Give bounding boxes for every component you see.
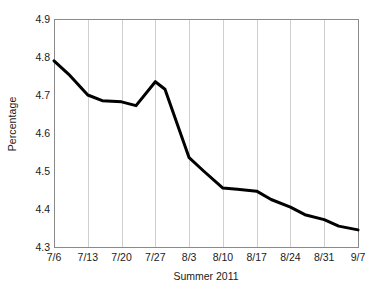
x-axis-tick-labels: 7/67/137/207/278/38/108/178/248/319/7 xyxy=(0,251,381,267)
x-axis-title: Summer 2011 xyxy=(54,270,358,282)
x-tick-label: 8/3 xyxy=(182,251,197,264)
x-tick-label: 7/6 xyxy=(47,251,62,264)
vertical-gridlines xyxy=(89,19,325,247)
x-tick-label: 8/24 xyxy=(280,251,300,264)
x-tick-label: 7/20 xyxy=(111,251,131,264)
line-chart: Percentage 4.34.44.54.64.74.84.9 7/67/13… xyxy=(0,0,381,299)
x-tick-label: 9/7 xyxy=(351,251,366,264)
x-tick-label: 8/17 xyxy=(246,251,266,264)
plot-frame xyxy=(55,20,359,248)
x-tick-label: 7/13 xyxy=(78,251,98,264)
x-tick-label: 8/10 xyxy=(213,251,233,264)
x-tick-label: 7/27 xyxy=(145,251,165,264)
data-series-line xyxy=(54,61,358,230)
x-tick-label: 8/31 xyxy=(314,251,334,264)
